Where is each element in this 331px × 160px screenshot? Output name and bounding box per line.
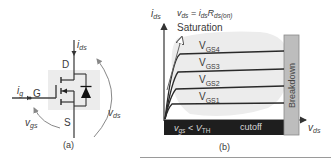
ids-label: ids [77, 39, 87, 51]
cutoff-label: cutoff [240, 122, 262, 132]
saturation-label: Saturation [177, 22, 223, 33]
figure-canvas: ids D G S ig vgs vds (a) ids vds vds = i… [0, 0, 331, 160]
gate-label: G [33, 88, 41, 99]
equation-label: vds = idsRds(on) [177, 8, 232, 20]
y-axis-label: ids [151, 8, 161, 20]
x-axis-label: vds [308, 122, 321, 134]
breakdown-label: Breakdown [287, 63, 297, 108]
vgs-label: vgs [25, 117, 38, 130]
drain-label: D [62, 59, 69, 70]
vgs-arrow-icon [34, 108, 60, 128]
panel-b-iv-chart: ids vds vds = idsRds(on) Saturation VGS4… [151, 8, 321, 152]
panel-a-mosfet-diagram: ids D G S ig vgs vds (a) [12, 39, 121, 150]
source-label: S [64, 117, 71, 128]
caption-b: (b) [219, 142, 230, 152]
caption-a: (a) [63, 140, 74, 150]
vds-label: vds [108, 107, 121, 119]
ig-label: ig [17, 85, 23, 98]
ids-arrow-icon [72, 51, 77, 56]
